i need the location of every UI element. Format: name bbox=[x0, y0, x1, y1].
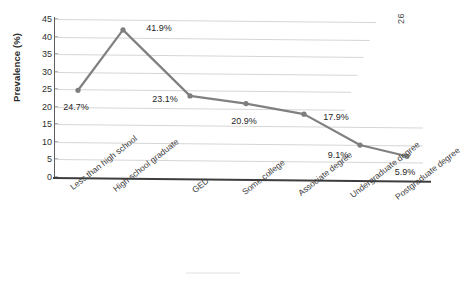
x-axis-label-2: GED bbox=[190, 176, 211, 195]
data-point-label: 41.9% bbox=[146, 23, 172, 33]
scan-smudge bbox=[186, 272, 240, 274]
data-point-label: 9.1% bbox=[328, 150, 349, 160]
data-point-label: 5.9% bbox=[395, 167, 416, 177]
data-point-label: 23.1% bbox=[152, 94, 178, 104]
page-corner-mark: 26 bbox=[396, 13, 406, 24]
data-point-label: 24.7% bbox=[63, 102, 89, 112]
x-axis-label-3: Some college bbox=[240, 157, 287, 197]
data-point-label: 20.9% bbox=[231, 116, 257, 126]
data-point-label: 17.9% bbox=[323, 112, 349, 122]
